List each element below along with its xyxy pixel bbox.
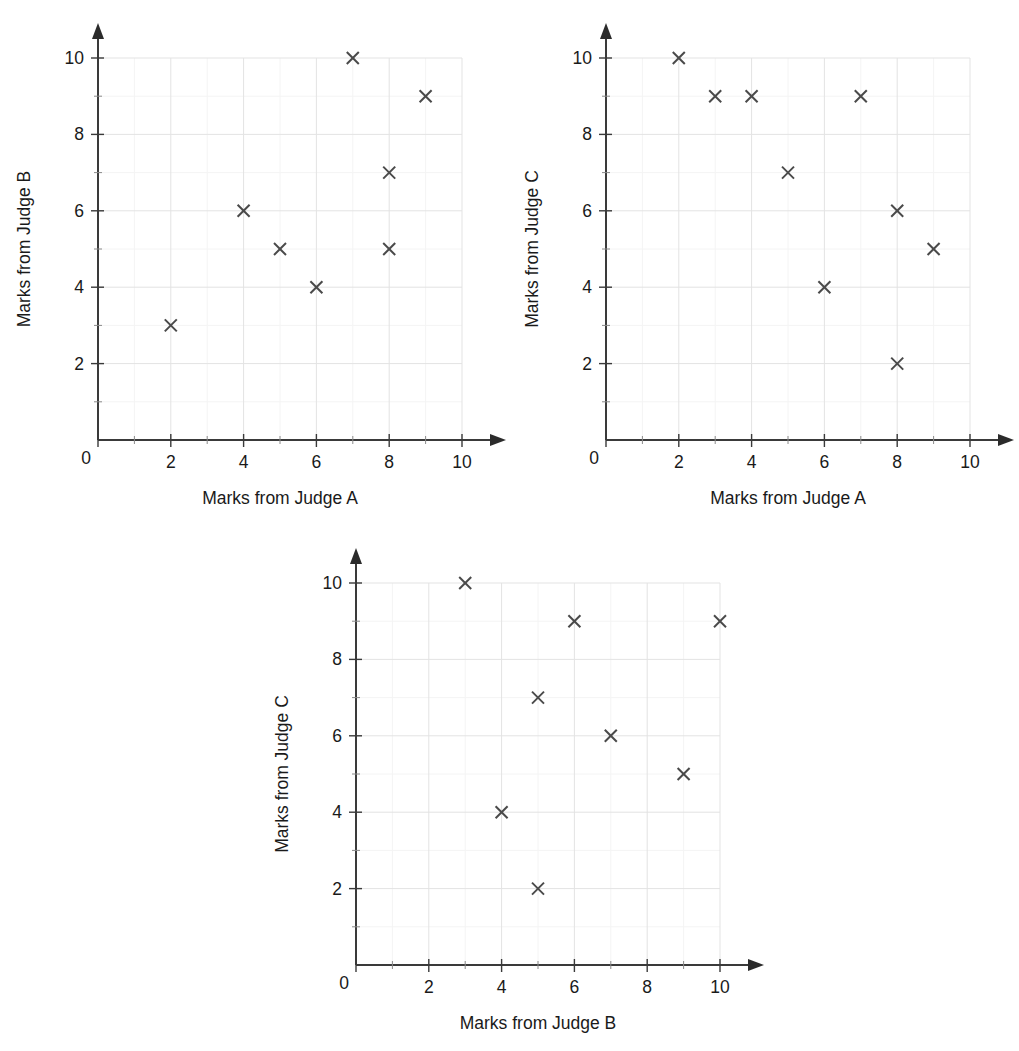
chart-canvas: 2468100246810Marks from Judge BMarks fro… [258, 525, 770, 1051]
scatter-chart-judge-a-vs-b: 2468100246810Marks from Judge AMarks fro… [0, 0, 512, 510]
x-tick-labels: 246810 [674, 452, 980, 472]
data-points [165, 52, 432, 331]
y-axis-arrow-icon [600, 23, 612, 39]
x-axis-title: Marks from Judge B [460, 1013, 617, 1033]
y-tick-label: 2 [332, 879, 342, 899]
origin-label: 0 [589, 448, 599, 468]
tick-marks [349, 583, 720, 972]
scatter-chart-judge-b-vs-c: 2468100246810Marks from Judge BMarks fro… [258, 525, 770, 1051]
x-axis-title: Marks from Judge A [202, 488, 358, 508]
gridlines [606, 58, 970, 440]
y-axis-title: Marks from Judge C [522, 170, 542, 328]
tick-marks [599, 58, 970, 447]
x-tick-label: 2 [674, 452, 684, 472]
y-tick-label: 2 [582, 354, 592, 374]
y-tick-labels: 246810 [573, 48, 593, 374]
x-tick-labels: 246810 [424, 977, 730, 997]
y-tick-labels: 246810 [323, 573, 343, 899]
y-tick-label: 4 [74, 277, 84, 297]
y-tick-label: 4 [332, 802, 342, 822]
x-tick-label: 2 [424, 977, 434, 997]
chart-canvas: 2468100246810Marks from Judge AMarks fro… [508, 0, 1019, 510]
x-axis-title: Marks from Judge A [710, 488, 866, 508]
y-axis-title: Marks from Judge C [272, 695, 292, 853]
origin-label: 0 [81, 448, 91, 468]
axes [92, 23, 506, 446]
y-tick-label: 6 [332, 726, 342, 746]
scatter-graphs-page: { "page": { "background": "#ffffff", "ma… [0, 0, 1019, 1051]
axes [350, 548, 764, 971]
x-axis-arrow-icon [748, 959, 764, 971]
y-axis-title: Marks from Judge B [14, 171, 34, 328]
scatter-chart-judge-a-vs-c: 2468100246810Marks from Judge AMarks fro… [508, 0, 1019, 510]
y-tick-label: 2 [74, 354, 84, 374]
y-tick-labels: 246810 [65, 48, 85, 374]
y-axis-arrow-icon [350, 548, 362, 564]
x-axis-arrow-icon [490, 434, 506, 446]
axes [600, 23, 1014, 446]
x-tick-label: 6 [820, 452, 830, 472]
origin-label: 0 [339, 973, 349, 993]
y-axis-arrow-icon [92, 23, 104, 39]
x-tick-labels: 246810 [166, 452, 472, 472]
x-tick-label: 6 [570, 977, 580, 997]
x-tick-label: 10 [710, 977, 730, 997]
x-tick-label: 8 [892, 452, 902, 472]
y-tick-label: 8 [582, 124, 592, 144]
x-tick-label: 2 [166, 452, 176, 472]
x-tick-label: 4 [497, 977, 507, 997]
x-tick-label: 4 [747, 452, 757, 472]
chart-canvas: 2468100246810Marks from Judge AMarks fro… [0, 0, 512, 510]
x-axis-arrow-icon [998, 434, 1014, 446]
y-tick-label: 10 [65, 48, 85, 68]
y-tick-label: 6 [582, 201, 592, 221]
x-tick-label: 4 [239, 452, 249, 472]
x-tick-label: 8 [642, 977, 652, 997]
y-tick-label: 6 [74, 201, 84, 221]
y-tick-label: 8 [332, 649, 342, 669]
y-tick-label: 8 [74, 124, 84, 144]
x-tick-label: 10 [960, 452, 980, 472]
x-tick-label: 6 [312, 452, 322, 472]
x-tick-label: 10 [452, 452, 472, 472]
gridlines [356, 583, 720, 965]
y-tick-label: 10 [323, 573, 343, 593]
y-tick-label: 4 [582, 277, 592, 297]
x-tick-label: 8 [384, 452, 394, 472]
y-tick-label: 10 [573, 48, 593, 68]
